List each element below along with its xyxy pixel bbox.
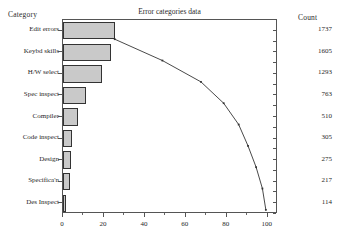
x-axis-tick-minor xyxy=(164,213,165,215)
cumulative-point-marker xyxy=(255,166,257,168)
y-axis-tick xyxy=(58,138,62,139)
x-axis-tick xyxy=(185,213,186,217)
count-value: 114 xyxy=(292,198,332,206)
category-label: H/W select xyxy=(3,68,59,76)
category-label: Keybd skills xyxy=(3,47,59,55)
count-value: 1605 xyxy=(292,47,332,55)
cumulative-curve-layer xyxy=(63,20,276,212)
x-axis-tick xyxy=(62,213,63,217)
cumulative-point-marker xyxy=(262,188,264,190)
count-value: 217 xyxy=(292,176,332,184)
y-axis-tick-right xyxy=(273,94,277,95)
y-axis-tick-right-minor xyxy=(273,105,276,106)
count-value: 1293 xyxy=(292,68,332,76)
cumulative-point-marker xyxy=(114,38,116,40)
cumulative-line xyxy=(115,39,266,210)
y-axis-tick xyxy=(58,94,62,95)
x-axis-label: 20 xyxy=(88,220,118,228)
y-axis-tick-right-minor xyxy=(273,84,276,85)
y-axis-tick-right-minor xyxy=(273,127,276,128)
x-axis-tick xyxy=(226,213,227,217)
y-axis-tick xyxy=(58,181,62,182)
x-axis-label: 80 xyxy=(211,220,241,228)
category-label: Code inspect xyxy=(3,133,59,141)
y-axis-tick-right xyxy=(273,30,277,31)
count-value: 510 xyxy=(292,112,332,120)
x-axis-tick xyxy=(267,213,268,217)
x-axis-label: 0 xyxy=(47,220,77,228)
category-header: Category xyxy=(8,10,37,19)
y-axis-tick xyxy=(58,202,62,203)
cumulative-point-marker xyxy=(238,124,240,126)
y-axis-tick-right-minor xyxy=(273,41,276,42)
x-axis-label: 60 xyxy=(170,220,200,228)
y-axis-tick-right xyxy=(273,73,277,74)
count-value: 1737 xyxy=(292,25,332,33)
cumulative-point-marker xyxy=(162,60,164,62)
x-axis-tick xyxy=(144,213,145,217)
cumulative-point-marker xyxy=(247,145,249,147)
y-axis-tick-right xyxy=(273,181,277,182)
plot-area xyxy=(62,19,277,213)
y-axis-tick-right xyxy=(273,159,277,160)
category-label: Specifica'n xyxy=(3,176,59,184)
cumulative-point-marker xyxy=(200,81,202,83)
y-axis-tick-right xyxy=(273,202,277,203)
category-label: Edit errors xyxy=(3,25,59,33)
y-axis-tick xyxy=(58,73,62,74)
count-header: Count xyxy=(298,13,317,22)
y-axis-tick xyxy=(58,116,62,117)
chart-title: Error categories data xyxy=(62,7,277,16)
count-value: 275 xyxy=(292,155,332,163)
category-label: Compiler xyxy=(3,112,59,120)
x-axis-label: 100 xyxy=(252,220,282,228)
y-axis-tick-right-minor xyxy=(273,213,276,214)
cumulative-point-marker xyxy=(223,102,225,104)
y-axis-tick-right xyxy=(273,138,277,139)
y-axis-tick-right xyxy=(273,116,277,117)
x-axis-tick-minor xyxy=(205,213,206,215)
y-axis-tick-right xyxy=(273,51,277,52)
y-axis-tick xyxy=(58,51,62,52)
x-axis-tick-minor xyxy=(82,213,83,215)
y-axis-tick-right-minor xyxy=(273,62,276,63)
pareto-chart: Category Count Error categories data Edi… xyxy=(0,0,337,243)
count-value: 763 xyxy=(292,90,332,98)
y-axis-tick xyxy=(58,30,62,31)
y-axis-tick xyxy=(58,159,62,160)
cumulative-point-marker xyxy=(265,209,267,211)
x-axis-tick-minor xyxy=(246,213,247,215)
y-axis-tick-right-minor xyxy=(273,148,276,149)
category-label: Spec inspect xyxy=(3,90,59,98)
x-axis-tick-minor xyxy=(123,213,124,215)
y-axis-tick-right-minor xyxy=(273,170,276,171)
category-label: Design xyxy=(3,155,59,163)
x-axis-tick xyxy=(103,213,104,217)
category-label: Des Inspect xyxy=(3,198,59,206)
y-axis-tick-right-minor xyxy=(273,191,276,192)
count-value: 305 xyxy=(292,133,332,141)
x-axis-label: 40 xyxy=(129,220,159,228)
